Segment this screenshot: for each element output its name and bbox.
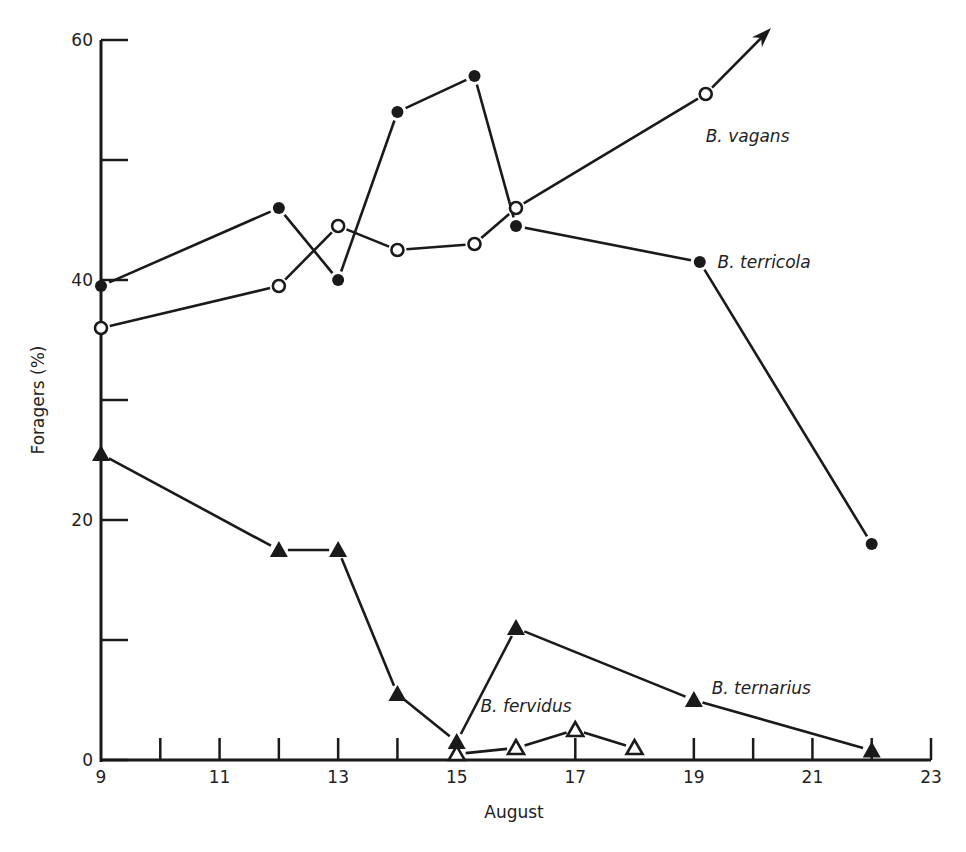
b-fervidus-label: B. fervidus — [480, 696, 571, 716]
filled-circle-marker-icon — [866, 538, 878, 550]
filled-circle-marker-icon — [95, 280, 107, 292]
open-triangle-marker-icon — [508, 740, 524, 754]
y-axis-title: Foragers (%) — [28, 346, 48, 455]
open-circle-marker-icon — [273, 280, 285, 292]
b-terricola-segment — [477, 85, 514, 218]
axes: 0204060911131517192123 — [71, 30, 941, 787]
b-terricola-segment — [341, 120, 394, 271]
filled-triangle-marker-icon — [92, 445, 110, 461]
b-terricola-label: B. terricola — [718, 252, 811, 272]
filled-circle-marker-icon — [510, 220, 522, 232]
foragers-line-chart: 0204060911131517192123 B. vagansB. terri… — [0, 0, 966, 852]
open-circle-marker-icon — [391, 244, 403, 256]
open-circle-marker-icon — [510, 202, 522, 214]
b-vagans-label: B. vagans — [706, 126, 790, 146]
series-markers — [92, 70, 881, 760]
filled-triangle-marker-icon — [863, 741, 881, 757]
b-vagans-segment — [285, 232, 332, 279]
filled-triangle-marker-icon — [329, 541, 347, 557]
open-circle-marker-icon — [469, 238, 481, 250]
b-ternarius-segment — [342, 558, 394, 685]
b-fervidus-segment — [525, 733, 567, 746]
x-tick-label: 21 — [802, 767, 824, 787]
b-vagans-arrow-line — [712, 32, 767, 87]
y-tick-label: 60 — [71, 30, 93, 50]
x-tick-label: 13 — [327, 767, 349, 787]
b-ternarius-segment — [404, 700, 449, 737]
b-vagans-segment — [110, 288, 270, 326]
b-terricola-segment — [109, 212, 270, 283]
open-circle-marker-icon — [95, 322, 107, 334]
filled-circle-marker-icon — [694, 256, 706, 268]
b-ternarius-segment — [524, 631, 685, 696]
filled-circle-marker-icon — [469, 70, 481, 82]
y-tick-label: 0 — [82, 750, 93, 770]
b-ternarius-segment — [109, 458, 271, 545]
b-terricola-segment — [285, 215, 333, 273]
x-tick-label: 11 — [209, 767, 231, 787]
b-fervidus-segment — [466, 749, 507, 753]
filled-circle-marker-icon — [391, 106, 403, 118]
x-axis-title: August — [484, 802, 544, 822]
b-terricola-segment — [406, 80, 467, 108]
b-ternarius-segment — [461, 636, 512, 734]
b-vagans-segment — [481, 214, 509, 238]
filled-triangle-marker-icon — [507, 619, 525, 635]
b-vagans-segment — [524, 99, 698, 204]
open-triangle-marker-icon — [627, 740, 643, 754]
filled-triangle-marker-icon — [270, 541, 288, 557]
x-tick-label: 19 — [683, 767, 705, 787]
b-fervidus-segment — [584, 733, 626, 746]
b-vagans-segment — [406, 245, 465, 250]
filled-triangle-marker-icon — [388, 685, 406, 701]
x-tick-label: 23 — [920, 767, 942, 787]
filled-circle-marker-icon — [332, 274, 344, 286]
b-ternarius-label: B. ternarius — [712, 678, 811, 698]
x-tick-label: 15 — [446, 767, 468, 787]
y-tick-label: 20 — [71, 510, 93, 530]
open-circle-marker-icon — [700, 88, 712, 100]
labels: B. vagansB. terricolaB. ternariusB. ferv… — [480, 126, 810, 716]
open-circle-marker-icon — [332, 220, 344, 232]
b-terricola-segment — [525, 228, 691, 261]
b-terricola-segment — [704, 270, 867, 537]
y-tick-label: 40 — [71, 270, 93, 290]
open-triangle-marker-icon — [567, 722, 583, 736]
filled-triangle-marker-icon — [685, 691, 703, 707]
x-tick-label: 17 — [564, 767, 586, 787]
x-tick-label: 9 — [96, 767, 107, 787]
filled-circle-marker-icon — [273, 202, 285, 214]
b-ternarius-segment — [703, 702, 864, 747]
